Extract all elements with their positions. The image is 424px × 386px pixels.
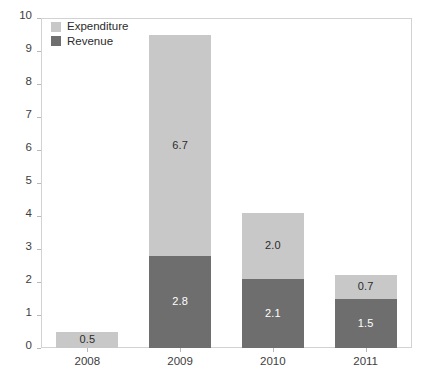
bar-stack: 6.72.8 (149, 35, 211, 348)
bar-segment-revenue[interactable]: 2.1 (242, 279, 304, 348)
y-axis-tick-label: 4 (26, 208, 32, 220)
bar-segment-value-label: 2.0 (265, 240, 281, 251)
x-axis-tick-label: 2011 (319, 356, 412, 368)
bar-segment-revenue[interactable]: 2.8 (149, 256, 211, 348)
y-axis: 012345678910 (0, 18, 41, 349)
x-axis-tick-label: 2009 (134, 356, 227, 368)
bar-stack: 2.02.1 (242, 213, 304, 348)
y-axis-tick-label: 0 (26, 340, 32, 352)
y-axis-tick-label: 3 (26, 241, 32, 253)
y-axis-tick-label: 1 (26, 307, 32, 319)
legend-item[interactable]: Expenditure (51, 21, 128, 33)
y-axis-tick-label: 8 (26, 76, 32, 88)
bar-group[interactable]: 2.02.1 (227, 18, 320, 348)
bar-group[interactable]: 6.72.8 (134, 18, 227, 348)
stacked-bar-chart: 012345678910 0.56.72.82.02.10.71.5 20082… (0, 0, 424, 386)
x-axis-tick-mark (273, 348, 274, 352)
bar-segment-value-label: 0.7 (358, 281, 374, 292)
legend-swatch-icon (51, 22, 61, 32)
bar-group[interactable]: 0.71.5 (319, 18, 412, 348)
bar-group[interactable]: 0.5 (41, 18, 134, 348)
x-axis-tick-mark (87, 348, 88, 352)
bar-segment-value-label: 1.5 (358, 318, 374, 329)
bars-layer: 0.56.72.82.02.10.71.5 (41, 18, 412, 348)
x-axis-tick-mark (180, 348, 181, 352)
bar-segment-value-label: 2.1 (265, 308, 281, 319)
legend-item[interactable]: Revenue (51, 36, 128, 48)
y-axis-tick-label: 6 (26, 142, 32, 154)
bar-segment-value-label: 2.8 (172, 296, 188, 307)
y-axis-tick-label: 5 (26, 175, 32, 187)
bar-segment-expenditure[interactable]: 2.0 (242, 213, 304, 279)
bar-segment-expenditure[interactable]: 6.7 (149, 35, 211, 256)
bar-segment-expenditure[interactable]: 0.5 (56, 332, 118, 349)
y-axis-tick-label: 10 (19, 10, 32, 22)
x-axis: 2008200920102011 (41, 348, 412, 386)
x-axis-tick-label: 2010 (227, 356, 320, 368)
chart-legend: ExpenditureRevenue (51, 21, 128, 47)
y-axis-tick-label: 7 (26, 109, 32, 121)
bar-segment-expenditure[interactable]: 0.7 (335, 275, 397, 298)
bar-stack: 0.5 (56, 332, 118, 349)
x-axis-tick-label: 2008 (41, 356, 134, 368)
legend-label: Revenue (67, 36, 113, 48)
legend-label: Expenditure (67, 21, 128, 33)
x-axis-tick-mark (366, 348, 367, 352)
y-axis-tick-label: 9 (26, 43, 32, 55)
bar-segment-value-label: 6.7 (172, 140, 188, 151)
legend-swatch-icon (51, 36, 61, 46)
bar-stack: 0.71.5 (335, 275, 397, 348)
bar-segment-revenue[interactable]: 1.5 (335, 299, 397, 349)
y-axis-tick-label: 2 (26, 274, 32, 286)
bar-segment-value-label: 0.5 (79, 334, 95, 345)
